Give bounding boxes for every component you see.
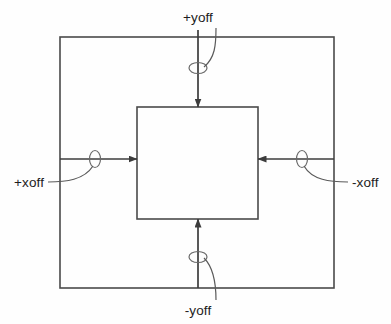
inner-content-rectangle bbox=[137, 107, 258, 219]
outer-boundary-rectangle bbox=[60, 37, 334, 288]
top-offset-label: +yoff bbox=[183, 10, 213, 25]
offset-diagram: +yoff +xoff -xoff -yoff bbox=[0, 0, 391, 324]
diagram-canvas: +yoff +xoff -xoff -yoff bbox=[0, 0, 391, 324]
right-leader-line bbox=[304, 166, 348, 182]
left-offset-label: +xoff bbox=[14, 175, 44, 190]
top-leader-line bbox=[204, 28, 216, 67]
right-offset-label: -xoff bbox=[352, 175, 379, 190]
bottom-offset-label: -yoff bbox=[185, 303, 212, 318]
bottom-leader-line bbox=[204, 258, 216, 300]
left-leader-line bbox=[48, 166, 93, 182]
